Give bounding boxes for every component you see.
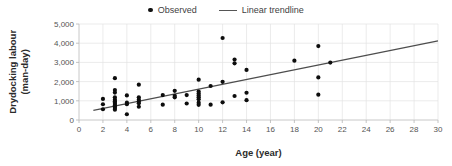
axis-ticks [76, 24, 438, 123]
y-tick-label: 5,000 [54, 20, 75, 29]
data-point [244, 91, 248, 95]
data-point [137, 105, 141, 109]
data-point [101, 97, 105, 101]
axis-lines [79, 24, 438, 120]
data-point [173, 95, 177, 99]
x-tick-label: 22 [338, 125, 347, 134]
data-point [221, 80, 225, 84]
x-tick-label: 28 [410, 125, 419, 134]
data-point [185, 101, 189, 105]
plot-area: 01,0002,0003,0004,0005,000 0246810121416… [0, 0, 452, 166]
data-point [197, 78, 201, 82]
y-tick-labels: 01,0002,0003,0004,0005,000 [54, 20, 75, 125]
data-point [316, 44, 320, 48]
grid-lines [79, 24, 438, 120]
x-tick-label: 26 [386, 125, 395, 134]
data-point [101, 102, 105, 106]
trendline-path [93, 41, 438, 111]
data-points [101, 36, 333, 116]
data-point [113, 90, 117, 94]
x-tick-label: 8 [173, 125, 178, 134]
y-tick-label: 1,000 [54, 97, 75, 106]
data-point [197, 103, 201, 107]
data-point [244, 98, 248, 102]
data-point [113, 108, 117, 112]
data-point [125, 102, 129, 106]
data-point [316, 75, 320, 79]
x-tick-label: 18 [290, 125, 299, 134]
scatter-chart: Observed Linear trendline Drydocking lab… [0, 0, 452, 166]
data-point [125, 93, 129, 97]
x-tick-label: 6 [149, 125, 154, 134]
data-point [173, 89, 177, 93]
x-tick-label: 4 [125, 125, 130, 134]
x-tick-label: 20 [314, 125, 323, 134]
x-tick-label: 16 [266, 125, 275, 134]
x-tick-label: 12 [218, 125, 227, 134]
x-tick-label: 14 [242, 125, 251, 134]
data-point [221, 36, 225, 40]
data-point [244, 68, 248, 72]
y-tick-label: 0 [70, 116, 75, 125]
x-tick-label: 0 [77, 125, 82, 134]
data-point [209, 103, 213, 107]
data-point [232, 57, 236, 61]
data-point [328, 60, 332, 64]
x-tick-labels: 024681012141618202224262830 [77, 125, 443, 134]
linear-trendline [93, 41, 438, 111]
x-tick-label: 30 [434, 125, 443, 134]
x-tick-label: 2 [101, 125, 106, 134]
x-tick-label: 10 [194, 125, 203, 134]
x-tick-label: 24 [362, 125, 371, 134]
data-point [316, 93, 320, 97]
data-point [125, 112, 129, 116]
data-point [185, 93, 189, 97]
data-point [232, 61, 236, 65]
y-tick-label: 3,000 [54, 58, 75, 67]
data-point [137, 83, 141, 87]
data-point [101, 107, 105, 111]
y-tick-label: 2,000 [54, 78, 75, 87]
data-point [209, 84, 213, 88]
data-point [221, 100, 225, 104]
data-point [232, 94, 236, 98]
data-point [161, 93, 165, 97]
data-point [292, 59, 296, 63]
y-tick-label: 4,000 [54, 39, 75, 48]
data-point [161, 103, 165, 107]
data-point [113, 76, 117, 80]
